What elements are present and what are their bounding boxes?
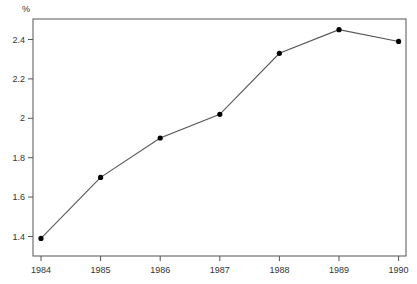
data-point	[158, 135, 163, 140]
x-tick-label: 1987	[210, 265, 230, 275]
x-tick-label: 1984	[31, 265, 51, 275]
y-axis-unit-label: %	[22, 4, 30, 14]
x-axis: 1984198519861987198819891990	[31, 256, 409, 275]
data-point	[396, 39, 401, 44]
plot-frame	[33, 19, 406, 256]
x-tick-label: 1985	[91, 265, 111, 275]
x-tick-label: 1989	[329, 265, 349, 275]
y-tick-label: 2.4	[12, 35, 25, 45]
y-tick-label: 1.8	[12, 153, 25, 163]
data-point	[217, 112, 222, 117]
y-axis: 1.41.61.822.22.4	[12, 35, 33, 242]
line-chart: % 1.41.61.822.22.4 198419851986198719881…	[0, 0, 417, 284]
x-tick-label: 1986	[150, 265, 170, 275]
x-tick-label: 1990	[389, 265, 409, 275]
data-line	[41, 30, 399, 239]
y-tick-label: 1.4	[12, 232, 25, 242]
y-tick-label: 2.2	[12, 74, 25, 84]
y-tick-label: 1.6	[12, 192, 25, 202]
x-tick-label: 1988	[269, 265, 289, 275]
data-point	[38, 236, 43, 241]
data-point	[98, 175, 103, 180]
data-point	[277, 51, 282, 56]
y-tick-label: 2	[20, 113, 25, 123]
data-markers	[38, 27, 401, 241]
data-point	[336, 27, 341, 32]
